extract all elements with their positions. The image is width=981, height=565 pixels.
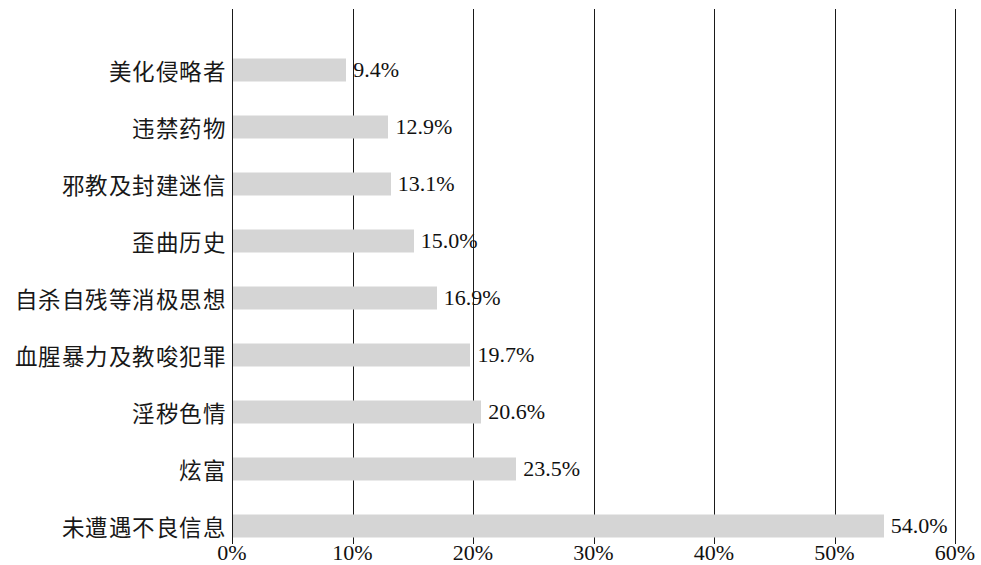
x-axis-tick-label: 0% xyxy=(217,540,246,565)
bar-value-label: 12.9% xyxy=(388,114,452,140)
bar xyxy=(233,343,470,366)
bar xyxy=(233,58,346,81)
x-axis-tick-label: 50% xyxy=(814,540,854,565)
bar-value-label: 23.5% xyxy=(516,456,580,482)
bar-row: 淫秽色情20.6% xyxy=(0,383,981,440)
bar-value-label: 9.4% xyxy=(346,57,399,83)
bar xyxy=(233,514,884,537)
x-axis-tick-label: 40% xyxy=(694,540,734,565)
bar-row: 歪曲历史15.0% xyxy=(0,212,981,269)
bar-row: 违禁药物12.9% xyxy=(0,98,981,155)
x-axis-tick-label: 30% xyxy=(573,540,613,565)
bar-value-label: 19.7% xyxy=(470,342,534,368)
bar-value-label: 13.1% xyxy=(391,171,455,197)
category-label: 邪教及封建迷信 xyxy=(62,168,227,200)
bar-value-label: 20.6% xyxy=(481,399,545,425)
category-label: 美化侵略者 xyxy=(109,54,227,86)
category-label: 违禁药物 xyxy=(132,111,226,143)
category-label: 淫秽色情 xyxy=(132,396,226,428)
category-label: 歪曲历史 xyxy=(132,225,226,257)
category-label: 未遭遇不良信息 xyxy=(62,510,227,542)
bar-value-label: 15.0% xyxy=(414,228,478,254)
bar-row: 炫富23.5% xyxy=(0,440,981,497)
category-label: 炫富 xyxy=(179,453,226,485)
bar-row: 美化侵略者9.4% xyxy=(0,41,981,98)
x-axis-tick-label: 10% xyxy=(332,540,372,565)
bar-row: 血腥暴力及教唆犯罪19.7% xyxy=(0,326,981,383)
x-axis-tick-label: 60% xyxy=(935,540,975,565)
bar-row: 邪教及封建迷信13.1% xyxy=(0,155,981,212)
bar-value-label: 16.9% xyxy=(437,285,501,311)
bar xyxy=(233,172,391,195)
bar xyxy=(233,229,414,252)
bar-value-label: 54.0% xyxy=(884,513,948,539)
bar xyxy=(233,457,516,480)
category-label: 血腥暴力及教唆犯罪 xyxy=(15,339,227,371)
category-label: 自杀自残等消极思想 xyxy=(15,282,227,314)
bar xyxy=(233,115,388,138)
x-axis-tick-label: 20% xyxy=(453,540,493,565)
bar xyxy=(233,400,481,423)
bar xyxy=(233,286,437,309)
bar-row: 自杀自残等消极思想16.9% xyxy=(0,269,981,326)
bar-chart: 美化侵略者9.4%违禁药物12.9%邪教及封建迷信13.1%歪曲历史15.0%自… xyxy=(0,0,981,565)
